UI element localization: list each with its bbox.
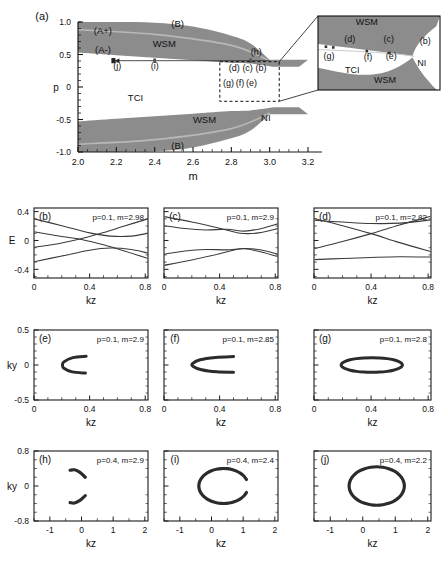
panel-b-y-axis-label: E: [9, 235, 16, 246]
panel-i-data-layer: [199, 469, 247, 504]
panel-a-x-tick-label: 2.8: [225, 157, 238, 167]
panel-j-x-tick-label: -1: [326, 525, 334, 535]
inset-label-0: WSM: [356, 17, 378, 27]
panel-a-point-label-3: (d): [229, 63, 240, 73]
panel-a-y-tick-label: -0.5: [56, 115, 71, 125]
panel-h-y-tick-label: 0: [24, 481, 29, 491]
panel-j-x-axis-label: kz: [368, 538, 378, 549]
panel-j-x-tick-label: 1: [393, 525, 398, 535]
panel-d-x-tick-label: 0.4: [365, 282, 377, 292]
panel-e-y-axis-label: ky: [7, 360, 17, 371]
panel-h-data-layer: [70, 470, 85, 503]
panel-d-band-3: [314, 257, 431, 260]
inset-label-8: TCI: [345, 65, 360, 75]
plot: 00.40.8kz(d)p=0.1, m=2.82: [312, 208, 435, 306]
inset-label-4: (g): [323, 51, 334, 61]
panel-e-y-tick-label: -0.5: [14, 395, 29, 405]
panel-b-annotation: p=0.1, m=2.98: [92, 213, 144, 222]
panel-f-x-axis-label: kz: [216, 417, 226, 428]
inset-label-6: (e): [386, 51, 397, 61]
panel-e-y-tick-label: 0.5: [17, 325, 29, 335]
panel-d-svg: 00.40.8kz(d)p=0.1, m=2.82: [294, 192, 447, 317]
panel-a-y-axis-label: p: [53, 82, 59, 93]
panel-a-plot-area: [78, 22, 308, 152]
ni-region: [274, 60, 309, 115]
panel-f-tag: (f): [170, 333, 179, 344]
inset-label-5: (f): [364, 52, 373, 62]
panel-d-data-layer: [314, 216, 431, 259]
panel-i-x-tick-label: -1: [176, 525, 184, 535]
panel-c-x-tick-label: 0.4: [214, 282, 226, 292]
panel-h-contour-1: [70, 496, 85, 504]
panel-c-x-axis-label: kz: [216, 295, 226, 306]
panel-e-y-tick-label: 0: [24, 360, 29, 370]
panel-b-y-tick-label: -0.4: [14, 265, 29, 275]
panel-i-x-tick-label: 0: [209, 525, 214, 535]
panel-j-fermi-surface: -1012kz(j)p=0.4, m=2.2: [294, 437, 447, 565]
panel-b-data-layer: [34, 219, 148, 262]
panel-a-region-label-3: WSM: [153, 38, 176, 49]
panel-e-contour-0: [62, 356, 86, 373]
plot: -1012kz(i)p=0.4, m=2.4: [164, 451, 278, 549]
panel-a-region-label-5: WSM: [193, 114, 216, 125]
panel-g-tag: (g): [319, 333, 331, 344]
panel-h-y-tick-label: -0.8: [14, 516, 29, 526]
panel-e-fermi-surface: 00.40.80.50-0.5kzky(e)p=0.1, m=2.9: [0, 316, 152, 438]
panel-e-x-tick-label: 0.4: [84, 404, 96, 414]
panel-a-y-tick-label: 1.0: [59, 17, 71, 27]
inset-marker-1: [332, 46, 335, 49]
panel-f-contour-0: [192, 357, 234, 373]
panel-i-x-axis-label: kz: [216, 538, 226, 549]
panel-j-data-layer: [349, 467, 404, 506]
panel-a-inset: WSM(d)(c)(b)(g)(f)(e)NITCIWSM: [318, 16, 440, 90]
panel-a-point-label-0: (j): [113, 61, 121, 71]
panel-g-svg: 00.40.8kz(g)p=0.1, m=2.8: [294, 316, 447, 438]
panel-d-band-structure: 00.40.8kz(d)p=0.1, m=2.82: [294, 192, 447, 317]
panel-h-tag: (h): [39, 454, 51, 465]
panel-a-point-label-7: (f): [236, 78, 245, 88]
panel-c-x-tick-label: 0: [162, 282, 167, 292]
panel-j-svg: -1012kz(j)p=0.4, m=2.2: [294, 437, 447, 565]
panel-i-annotation: p=0.4, m=2.4: [227, 456, 275, 465]
panel-a-x-tick-label: 2.6: [187, 157, 200, 167]
figure-root: 1.00.50-0.5-1.02.02.22.42.62.83.03.2mp(a…: [0, 0, 447, 565]
inset-label-1: (d): [344, 34, 355, 44]
panel-i-x-tick-label: 1: [241, 525, 246, 535]
panel-i-contour-0: [199, 469, 247, 504]
panel-g-x-tick-label: 0: [312, 404, 317, 414]
panel-h-y-axis-label: ky: [7, 481, 17, 492]
panel-e-x-axis-label: kz: [86, 417, 96, 428]
panel-a-region-label-6: NI: [261, 112, 271, 123]
panel-h-y-tick-label: 0.8: [17, 446, 29, 456]
panel-h-annotation: p=0.4, m=2.9: [97, 456, 145, 465]
panel-a-point-label-8: (e): [246, 78, 257, 88]
panel-c-band-structure: 00.40.8kz(c)p=0.1, m=2.9: [148, 192, 296, 317]
panel-d-x-tick-label: 0.8: [422, 282, 434, 292]
panel-b-y-tick-label: 0.4: [17, 207, 29, 217]
panel-c-annotation: p=0.1, m=2.9: [227, 213, 275, 222]
panel-i-fermi-surface: -1012kz(i)p=0.4, m=2.4: [148, 437, 296, 565]
panel-a-region-label-7: (B): [171, 140, 184, 151]
panel-d-x-tick-label: 0: [312, 282, 317, 292]
panel-b-x-tick-label: 0.4: [84, 282, 96, 292]
panel-h-x-tick-label: 0: [79, 525, 84, 535]
panel-e-x-tick-label: 0: [32, 404, 37, 414]
panel-a-point-label-6: (g): [223, 78, 234, 88]
panel-g-contour-0: [341, 358, 402, 373]
panel-j-x-tick-label: 2: [425, 525, 430, 535]
panel-a-x-axis-label: m: [188, 170, 197, 182]
panel-g-data-layer: [341, 358, 402, 373]
panel-j-contour-0: [349, 467, 404, 506]
panel-j-annotation: p=0.4, m=2.2: [380, 456, 428, 465]
panel-a-point-label-2: (h): [251, 47, 262, 57]
panel-c-x-tick-label: 0.8: [269, 282, 281, 292]
panel-j-x-tick-label: 0: [360, 525, 365, 535]
panel-h-contour-0: [70, 470, 85, 478]
panel-b-svg: 00.40.80.40-0.4kzE(b)p=0.1, m=2.98: [0, 192, 152, 317]
plot: 00.40.8kz(f)p=0.1, m=2.85: [162, 330, 282, 428]
inset-label-7: NI: [417, 58, 426, 68]
panel-a-region-label-4: TCI: [128, 92, 143, 103]
panel-c-band-0: [164, 224, 278, 231]
panel-a-content: 1.00.50-0.5-1.02.02.22.42.62.83.03.2mp(a…: [35, 10, 440, 182]
panel-a-x-tick-label: 3.0: [263, 157, 276, 167]
